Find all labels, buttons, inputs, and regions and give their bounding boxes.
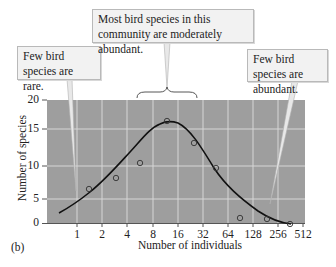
panel-label: (b) [11,241,24,253]
y-tick-label: 20 [17,93,39,105]
x-axis-label: Number of individuals [110,239,270,251]
y-tick-label: 0 [17,216,39,228]
x-tick-label: 512 [289,228,317,240]
callout-moderate-species: Most bird species in this community are … [92,9,254,43]
center-callout-pointer [164,42,170,88]
callout-abundant-species: Few bird species are abundant. [247,49,328,82]
x-tick-label: 1 [63,228,91,240]
plot-area [47,100,305,223]
y-axis-label: Number of species [16,108,28,208]
callout-rare-species: Few bird species are rare. [17,46,101,80]
peak-brace [137,87,197,98]
